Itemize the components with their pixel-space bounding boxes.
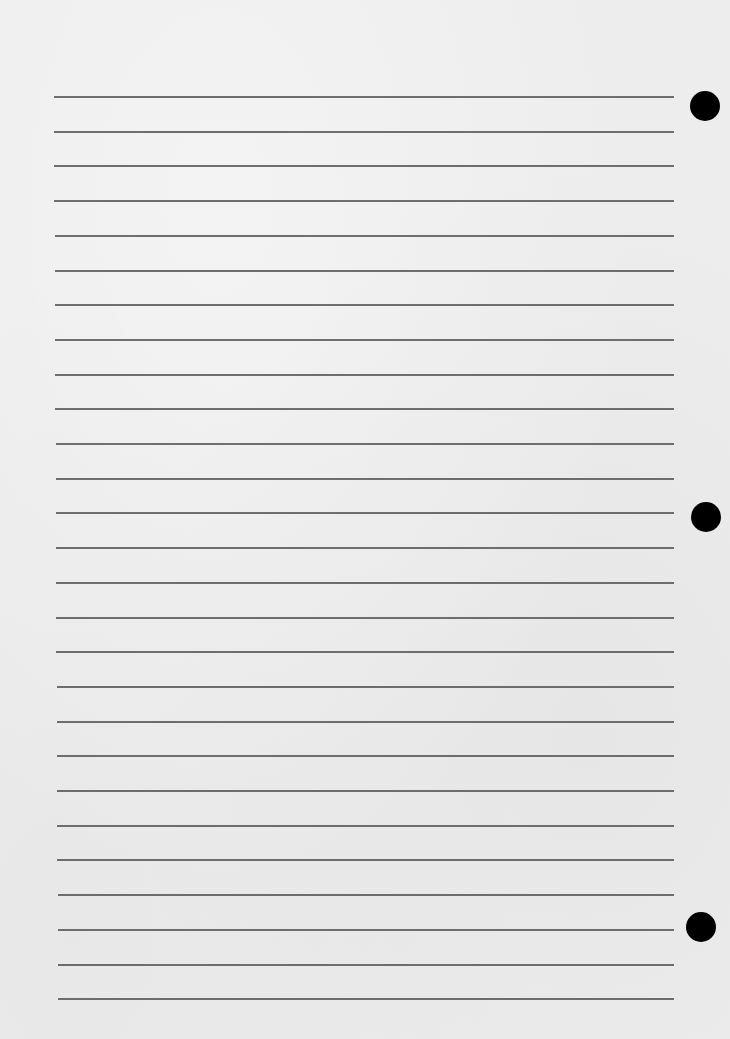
ruled-line [56,582,674,584]
punch-hole-top [690,91,720,121]
ruled-line [56,512,674,514]
ruled-line [56,443,674,445]
ruled-line [55,304,674,306]
ruled-line [58,964,674,966]
ruled-line [55,408,674,410]
ruled-line [56,651,674,653]
ruled-line [55,270,674,272]
ruled-line [58,894,674,896]
ruled-line [55,235,674,237]
ruled-line [54,131,674,133]
ruled-line [54,200,674,202]
punch-hole-middle [691,502,721,532]
ruled-line [56,547,674,549]
ruled-line [58,929,674,931]
ruled-line [54,96,674,98]
ruled-line [55,374,674,376]
ruled-line [57,721,674,723]
ruled-line [56,478,674,480]
ruled-line [55,339,674,341]
ruled-line [57,790,674,792]
ruled-line [58,998,674,1000]
ruled-line [57,859,674,861]
ruled-line [54,165,674,167]
ruled-line [56,617,674,619]
ruled-line [57,825,674,827]
ruled-line [57,755,674,757]
lined-paper-sheet [0,0,730,1039]
ruled-line [57,686,674,688]
punch-hole-bottom [686,912,716,942]
